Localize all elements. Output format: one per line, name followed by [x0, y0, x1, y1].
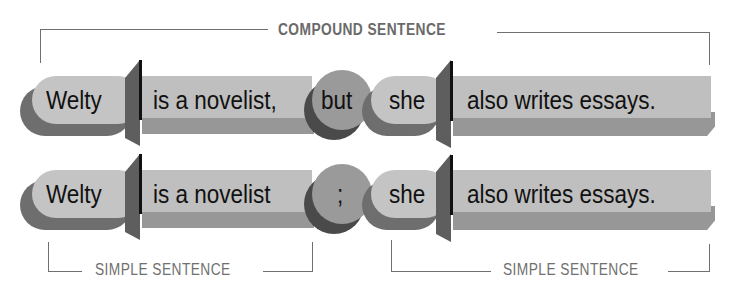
bracket-line — [48, 271, 82, 272]
compound-sentence-label: COMPOUND SENTENCE — [278, 21, 446, 39]
semicolon-mark: ; — [337, 180, 343, 209]
bracket-line — [312, 242, 313, 272]
bracket-line — [709, 244, 710, 272]
predicate-text: is a novelist — [153, 180, 271, 209]
subject-word: Welty — [46, 180, 102, 209]
bracket-line — [709, 32, 710, 65]
subject-word: she — [389, 86, 425, 115]
bracket-line — [668, 271, 710, 272]
bracket-line — [263, 271, 313, 272]
subject-word: Welty — [46, 86, 102, 115]
bracket-line — [391, 271, 491, 272]
predicate-text: is a novelist, — [153, 86, 277, 115]
bracket-line — [40, 29, 41, 63]
predicate-text: also writes essays. — [467, 180, 656, 209]
simple-sentence-label: SIMPLE SENTENCE — [95, 261, 231, 279]
conjunction-word: but — [321, 86, 352, 115]
simple-sentence-label: SIMPLE SENTENCE — [503, 261, 639, 279]
bracket-line — [40, 29, 268, 30]
bracket-line — [48, 242, 49, 272]
bracket-line — [391, 240, 392, 272]
subject-word: she — [389, 180, 425, 209]
bracket-line — [497, 32, 710, 33]
predicate-text: also writes essays. — [467, 86, 656, 115]
